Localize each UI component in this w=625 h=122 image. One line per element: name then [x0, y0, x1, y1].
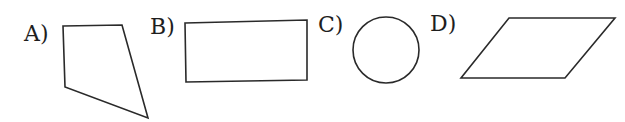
- circle-shape-c: [353, 17, 419, 83]
- quadrilateral-shape-a: [63, 25, 148, 118]
- parallelogram-shape-d: [461, 18, 615, 78]
- shapes-figure: A) B) C) D): [0, 0, 625, 122]
- shapes-svg: [0, 0, 625, 122]
- rectangle-shape-b: [185, 20, 307, 82]
